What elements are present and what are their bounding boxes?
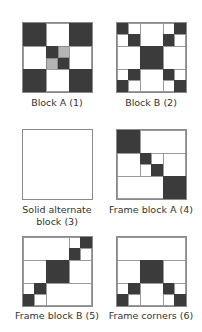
- dark-square: [140, 46, 164, 70]
- solid-alternate-caption-line1: Solid alternate: [7, 204, 107, 216]
- dark-square: [46, 46, 58, 58]
- light-square: [69, 260, 92, 284]
- light-square: [163, 260, 186, 284]
- dark-square: [163, 176, 186, 199]
- frame-block-b-diagram: [22, 236, 93, 307]
- dark-square: [69, 69, 92, 92]
- dark-square: [174, 294, 186, 306]
- light-square: [117, 260, 141, 284]
- dark-square: [69, 23, 92, 47]
- light-rectangle: [23, 237, 70, 261]
- frame-block-a-diagram: [116, 129, 187, 200]
- light-square: [69, 46, 92, 70]
- light-square: [140, 69, 164, 92]
- frame-corners-caption: Frame corners (6): [101, 310, 201, 322]
- solid-alternate-block-diagram: [22, 129, 93, 200]
- light-rectangle: [117, 176, 164, 199]
- light-square: [140, 23, 164, 47]
- light-rectangle: [46, 283, 92, 306]
- block-b-caption: Block B (2): [101, 97, 201, 109]
- frame-block-a-caption: Frame block A (4): [101, 204, 201, 216]
- light-square: [46, 69, 70, 92]
- dark-square: [23, 69, 47, 92]
- dark-square: [117, 130, 141, 154]
- dark-square: [140, 260, 164, 284]
- dark-square: [23, 23, 47, 47]
- light-square: [163, 153, 186, 177]
- light-square: [163, 46, 186, 70]
- light-square: [23, 260, 47, 284]
- light-rectangle: [140, 130, 186, 154]
- solid-alternate-caption-line2: block (3): [7, 216, 107, 228]
- light-square: [140, 283, 164, 306]
- light-square: [117, 153, 141, 177]
- light-square: [117, 46, 141, 70]
- block-b-diagram: [116, 22, 187, 93]
- block-a-caption: Block A (1): [7, 97, 107, 109]
- light-rectangle: [117, 237, 186, 261]
- dark-square: [174, 80, 186, 92]
- block-a-diagram: [22, 22, 93, 93]
- dark-square: [46, 260, 70, 284]
- light-square: [23, 46, 47, 70]
- frame-block-b-caption: Frame block B (5): [7, 310, 107, 322]
- light-square: [46, 23, 70, 47]
- frame-corners-diagram: [116, 236, 187, 307]
